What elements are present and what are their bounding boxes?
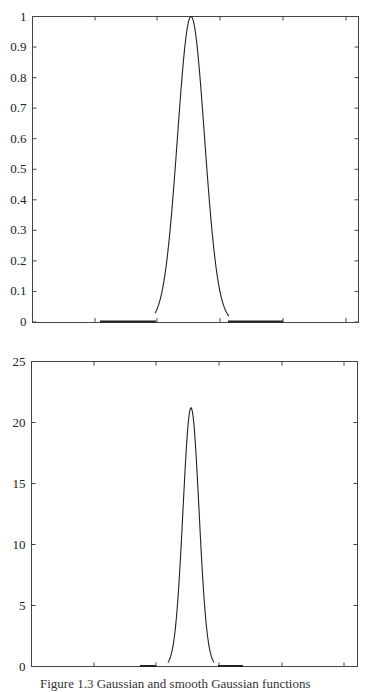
bottom-peak-curve — [168, 408, 214, 663]
top-plot: 00.10.20.30.40.50.60.70.80.91 — [10, 9, 358, 330]
y-tick-label: 10 — [13, 537, 26, 552]
top-gaussian-curve — [155, 17, 229, 317]
y-tick-label: 20 — [13, 415, 26, 430]
y-tick-label: 0.9 — [10, 39, 26, 54]
y-tick-label: 0.6 — [10, 131, 27, 146]
y-tick-label: 0.4 — [10, 192, 27, 207]
y-tick-label: 0.3 — [10, 222, 26, 237]
y-tick-label: 1 — [20, 9, 27, 24]
top-x-ticks — [95, 17, 346, 323]
bottom-x-ticks — [94, 362, 344, 667]
y-tick-label: 15 — [13, 476, 26, 491]
y-tick-label: 0 — [19, 659, 26, 674]
y-tick-label: 0.7 — [10, 100, 27, 115]
y-tick-label: 0.8 — [10, 70, 26, 85]
y-tick-label: 0.1 — [10, 283, 26, 298]
y-tick-label: 25 — [13, 354, 26, 369]
bottom-plot: 0510152025 — [13, 354, 358, 674]
y-tick-label: 0 — [20, 314, 27, 329]
y-tick-label: 5 — [19, 598, 26, 613]
figure-caption: Figure 1.3 Gaussian and smooth Gaussian … — [40, 676, 310, 692]
bottom-plot-frame — [32, 362, 358, 667]
y-tick-label: 0.2 — [10, 253, 26, 268]
y-tick-label: 0.5 — [10, 161, 26, 176]
bottom-y-ticks: 0510152025 — [13, 354, 358, 674]
top-plot-frame — [33, 17, 359, 323]
